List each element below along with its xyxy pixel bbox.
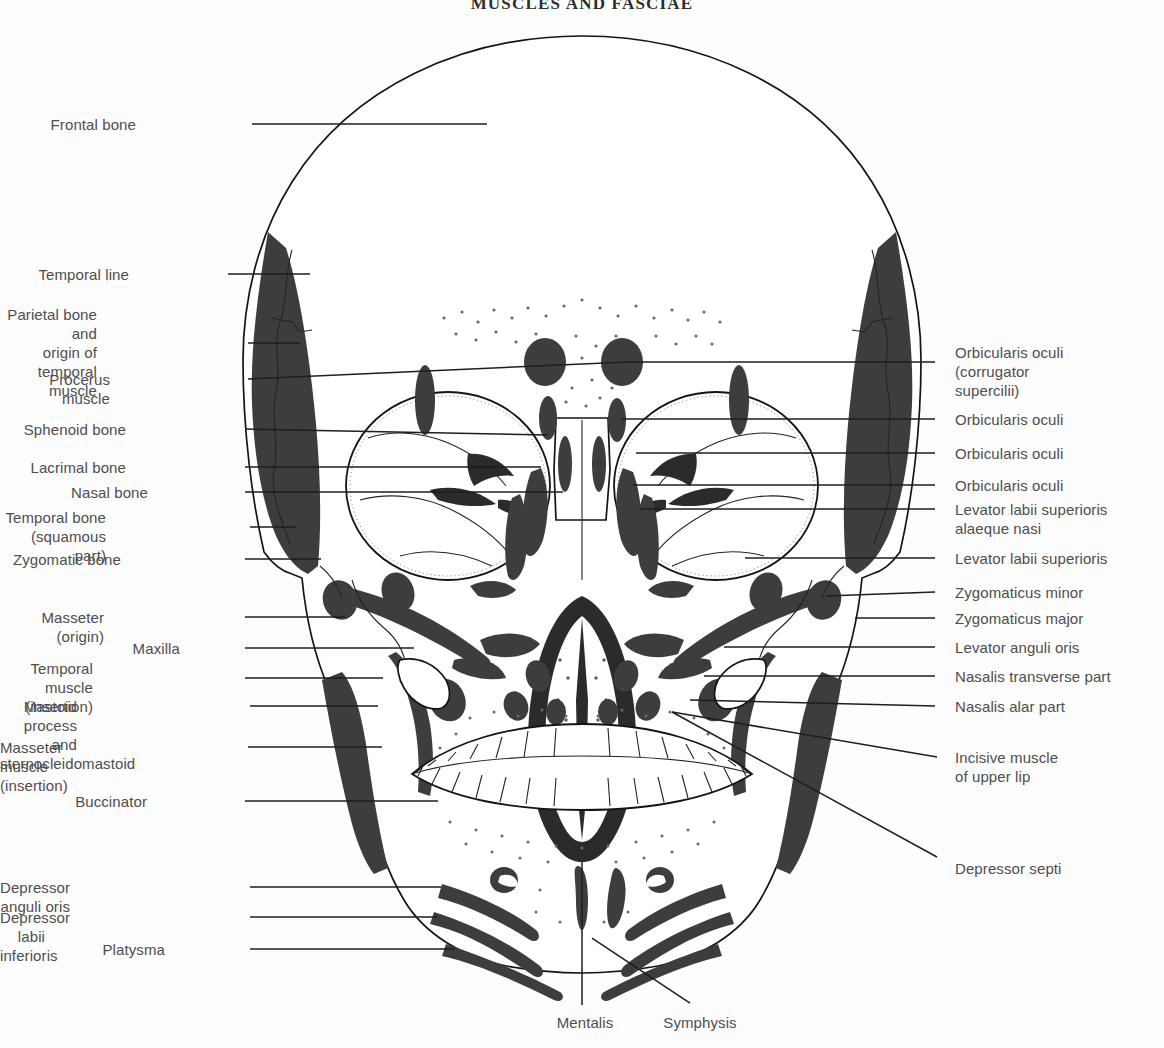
label-maxilla: Maxilla: [0, 639, 180, 658]
label-nasal-bone: Nasal bone: [0, 483, 148, 502]
label-depressor-septi: Depressor septi: [955, 859, 1164, 878]
label-temporal-line: Temporal line: [0, 265, 129, 284]
label-zygomatic-bone: Zygomatic bone: [0, 550, 121, 569]
label-levator-labii-sup-alaeque: Levator labii superioris alaeque nasi: [955, 500, 1164, 538]
label-zygomaticus-minor: Zygomaticus minor: [955, 583, 1164, 602]
label-orbicularis-oculi-1: Orbicularis oculi: [955, 410, 1164, 429]
label-zygomaticus-major: Zygomaticus major: [955, 609, 1164, 628]
label-symphysis: Symphysis: [645, 1013, 755, 1032]
label-frontal-bone: Frontal bone: [0, 115, 136, 134]
label-orbicularis-oculi-3: Orbicularis oculi: [955, 476, 1164, 495]
label-levator-labii-superioris: Levator labii superioris: [955, 549, 1164, 568]
label-procerus-muscle: Procerus muscle: [0, 370, 110, 408]
label-sphenoid-bone: Sphenoid bone: [0, 420, 126, 439]
label-masseter-muscle-insertion: Masseter muscle (insertion): [0, 738, 16, 795]
label-platysma: Platysma: [0, 940, 165, 959]
label-nasalis-transverse-part: Nasalis transverse part: [955, 667, 1164, 686]
label-orbicularis-oculi-corrugator: Orbicularis oculi (corrugator supercilii…: [955, 343, 1164, 400]
label-nasalis-alar-part: Nasalis alar part: [955, 697, 1164, 716]
label-incisive-muscle-upper-lip: Incisive muscle of upper lip: [955, 748, 1164, 786]
label-lacrimal-bone: Lacrimal bone: [0, 458, 126, 477]
label-levator-anguli-oris: Levator anguli oris: [955, 638, 1164, 657]
label-buccinator: Buccinator: [0, 792, 147, 811]
label-orbicularis-oculi-2: Orbicularis oculi: [955, 444, 1164, 463]
label-mentalis: Mentalis: [530, 1013, 640, 1032]
